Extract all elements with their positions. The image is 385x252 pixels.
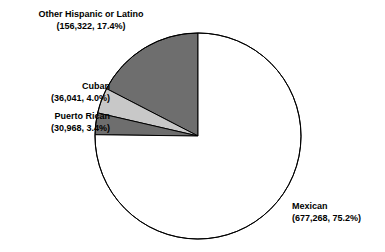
slice-label-value: (677,268, 75.2%) xyxy=(292,212,384,224)
slice-label-name: Mexican xyxy=(292,200,384,212)
slice-label-mexican: Mexican (677,268, 75.2%) xyxy=(292,200,384,224)
slice-label-value: (30,968, 3.4%) xyxy=(8,122,110,134)
slice-label-name: Puerto Rican xyxy=(8,110,110,122)
slice-label-name: Other Hispanic or Latino xyxy=(18,8,164,20)
pie-chart-figure: Other Hispanic or Latino (156,322, 17.4%… xyxy=(0,0,385,252)
slice-label-value: (36,041, 4.0%) xyxy=(14,92,110,104)
slice-label-puerto-rican: Puerto Rican (30,968, 3.4%) xyxy=(8,110,110,134)
slice-label-cuban: Cuban (36,041, 4.0%) xyxy=(14,80,110,104)
slice-label-name: Cuban xyxy=(14,80,110,92)
slice-label-other-hispanic-or-latino: Other Hispanic or Latino (156,322, 17.4%… xyxy=(18,8,164,32)
slice-label-value: (156,322, 17.4%) xyxy=(18,20,164,32)
